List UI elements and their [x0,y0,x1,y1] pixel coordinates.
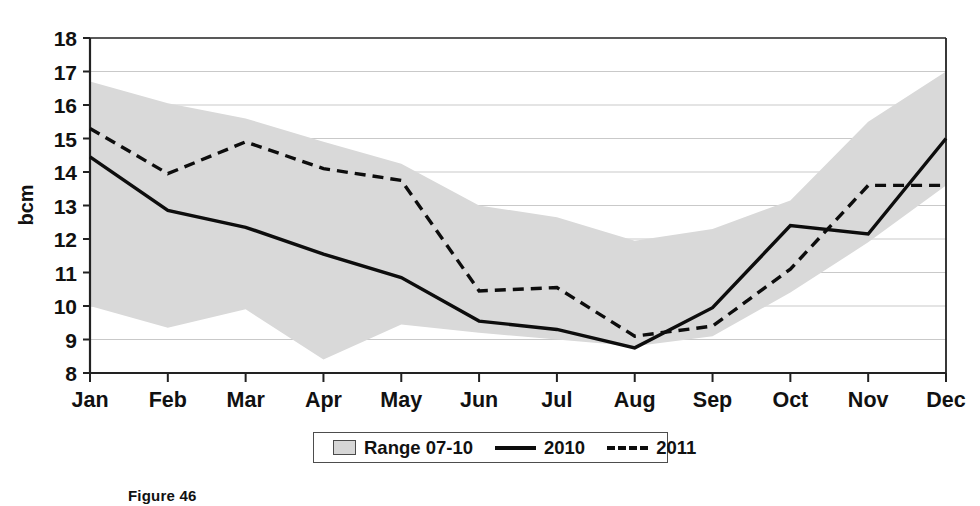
x-tick-label: Mar [227,388,266,412]
x-tick-label: Apr [305,388,343,412]
y-tick-label: 10 [54,295,77,318]
y-tick-label: 15 [54,128,78,151]
y-tick-label: 9 [65,329,77,352]
y-tick-label: 14 [54,161,78,184]
figure-caption: Figure 46 [128,487,197,504]
y-tick-label: 8 [65,362,77,385]
legend-label-2011: 2011 [656,437,696,459]
range-band-area [90,72,946,360]
dashed-line-icon [607,446,648,450]
x-tick-label: Oct [772,388,808,412]
figure-container: 89101112131415161718 JanFebMarAprMayJunJ… [0,0,980,506]
x-tick-label: Jun [460,388,498,412]
legend-label-2010: 2010 [544,437,585,459]
legend-item-2011: 2011 [607,437,696,459]
x-tick-label: Feb [149,388,187,412]
legend-item-range: Range 07-10 [333,437,473,459]
x-tick-label: Dec [926,388,965,412]
x-tick-label: Jul [541,388,572,412]
x-tick-label: Jan [71,388,108,412]
chart-plot-area: 89101112131415161718 JanFebMarAprMayJunJ… [0,0,980,425]
y-axis-title-text: bcm [15,184,37,225]
chart-legend: Range 07-10 2010 2011 [313,432,668,463]
y-tick-label: 11 [55,262,78,285]
x-axis-tick-labels: JanFebMarAprMayJunJulAugSepOctNovDec [71,388,965,412]
y-tick-label: 18 [54,27,78,50]
x-tick-label: Sep [693,388,732,412]
y-tick-label: 16 [54,94,77,117]
x-tick-label: Aug [614,388,656,412]
x-tick-label: Nov [848,388,889,412]
legend-item-2010: 2010 [495,437,585,459]
range-band-path [90,72,946,360]
y-tick-label: 13 [54,195,77,218]
legend-label-range: Range 07-10 [364,437,473,459]
y-tick-label: 12 [54,228,77,251]
y-axis-title: bcm [15,184,37,225]
y-tick-label: 17 [54,61,77,84]
x-tick-label: May [380,388,422,412]
y-axis-tick-labels: 89101112131415161718 [54,27,78,385]
range-swatch-icon [333,440,356,455]
line-chart-svg: 89101112131415161718 JanFebMarAprMayJunJ… [0,0,980,425]
solid-line-icon [495,446,536,450]
